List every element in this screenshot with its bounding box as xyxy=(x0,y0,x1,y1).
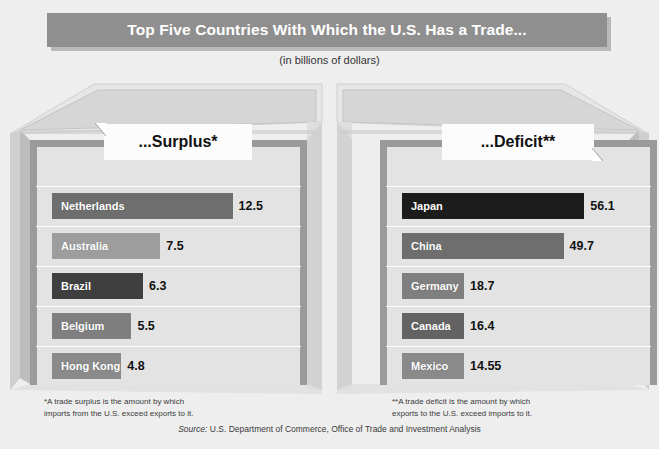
tag-fold-icon xyxy=(592,148,603,161)
bar-value-label: 18.7 xyxy=(470,279,494,293)
bar: Netherlands xyxy=(52,193,233,219)
bar-row: Japan56.1 xyxy=(380,193,657,219)
gridline xyxy=(36,186,301,187)
page-title: Top Five Countries With Which the U.S. H… xyxy=(127,21,526,39)
gridline xyxy=(386,226,651,227)
deficit-plate: ...Deficit** Japan56.1China49.7Germany18… xyxy=(380,140,657,385)
surplus-tag-label: ...Surplus* xyxy=(138,133,217,151)
gridline xyxy=(386,346,651,347)
bar-value-label: 5.5 xyxy=(137,319,154,333)
bar-category-label: Brazil xyxy=(52,280,91,292)
deficit-bars: Japan56.1China49.7Germany18.7Canada16.4M… xyxy=(380,186,657,382)
bar: Belgium xyxy=(52,313,131,339)
infographic-root: Top Five Countries With Which the U.S. H… xyxy=(0,0,659,468)
bar-category-label: Mexico xyxy=(402,360,448,372)
bar: Germany xyxy=(402,273,464,299)
bar-category-label: Belgium xyxy=(52,320,104,332)
gridline xyxy=(386,186,651,187)
bar-category-label: China xyxy=(402,240,442,252)
deficit-box: ...Deficit** Japan56.1China49.7Germany18… xyxy=(329,78,653,400)
bar-row: Mexico14.55 xyxy=(380,353,657,379)
bar-category-label: Australia xyxy=(52,240,108,252)
bar-value-label: 16.4 xyxy=(470,319,494,333)
tag-fold-icon xyxy=(95,123,106,136)
bar: Brazil xyxy=(52,273,143,299)
footnote-surplus: *A trade surplus is the amount by which … xyxy=(44,396,274,419)
gridline xyxy=(386,266,651,267)
bar-value-label: 49.7 xyxy=(570,239,594,253)
footnote-deficit: **A trade deficit is the amount by which… xyxy=(392,396,622,419)
bar-row: Germany18.7 xyxy=(380,273,657,299)
gridline xyxy=(36,306,301,307)
bar-row: Netherlands12.5 xyxy=(30,193,307,219)
bar: Australia xyxy=(52,233,160,259)
subtitle: (in billions of dollars) xyxy=(0,54,659,66)
bar-value-label: 12.5 xyxy=(239,199,263,213)
bar-row: Canada16.4 xyxy=(380,313,657,339)
gridline xyxy=(36,346,301,347)
deficit-tag-label: ...Deficit** xyxy=(481,133,556,151)
deficit-tag: ...Deficit** xyxy=(442,124,594,160)
bar-row: Hong Kong4.8 xyxy=(30,353,307,379)
bar-category-label: Germany xyxy=(402,280,459,292)
surplus-tag: ...Surplus* xyxy=(104,124,252,160)
bar-value-label: 7.5 xyxy=(166,239,183,253)
gridline xyxy=(36,226,301,227)
bar: Mexico xyxy=(402,353,464,379)
surplus-box: ...Surplus* Netherlands12.5Australia7.5B… xyxy=(6,78,330,400)
source-label: Source: xyxy=(178,424,207,434)
bar-category-label: Netherlands xyxy=(52,200,125,212)
source-line: Source: U.S. Department of Commerce, Off… xyxy=(0,424,659,434)
bar: Japan xyxy=(402,193,584,219)
surplus-bars: Netherlands12.5Australia7.5Brazil6.3Belg… xyxy=(30,186,307,382)
bar-row: Belgium5.5 xyxy=(30,313,307,339)
bar-row: Brazil6.3 xyxy=(30,273,307,299)
bar: Hong Kong xyxy=(52,353,121,379)
bar-row: China49.7 xyxy=(380,233,657,259)
bar: China xyxy=(402,233,564,259)
source-text: U.S. Department of Commerce, Office of T… xyxy=(207,424,480,434)
bar-row: Australia7.5 xyxy=(30,233,307,259)
surplus-plate: ...Surplus* Netherlands12.5Australia7.5B… xyxy=(30,140,307,385)
bar-value-label: 56.1 xyxy=(590,199,614,213)
bar-category-label: Japan xyxy=(402,200,443,212)
gridline xyxy=(36,266,301,267)
bar-category-label: Canada xyxy=(402,320,451,332)
bar-value-label: 14.55 xyxy=(470,359,501,373)
bar: Canada xyxy=(402,313,464,339)
bar-value-label: 4.8 xyxy=(127,359,144,373)
bar-category-label: Hong Kong xyxy=(52,360,120,372)
gridline xyxy=(386,306,651,307)
bar-value-label: 6.3 xyxy=(149,279,166,293)
title-banner: Top Five Countries With Which the U.S. H… xyxy=(47,13,607,47)
